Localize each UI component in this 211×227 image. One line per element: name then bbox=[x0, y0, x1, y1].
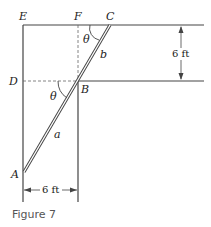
figure-caption: Figure 7 bbox=[12, 208, 56, 221]
ladder-line-inner bbox=[24, 25, 110, 172]
angle-label-theta-bottom: θ bbox=[50, 90, 57, 103]
point-label-E: E bbox=[18, 10, 27, 23]
point-label-D: D bbox=[8, 75, 18, 88]
horizontal-dimension-label: 6 ft bbox=[42, 184, 59, 195]
point-label-C: C bbox=[106, 10, 115, 23]
arrow-down-icon bbox=[179, 73, 184, 80]
arrow-left-icon bbox=[24, 188, 31, 193]
point-label-F: F bbox=[73, 10, 82, 23]
point-label-B: B bbox=[80, 83, 89, 96]
corridor-ladder-diagram: E F C D B A b a θ θ 6 ft 6 ft bbox=[0, 0, 211, 227]
arrow-up-icon bbox=[179, 26, 184, 33]
angle-arc-bottom bbox=[58, 81, 67, 98]
arrow-right-icon bbox=[70, 188, 77, 193]
vertical-dimension-label: 6 ft bbox=[172, 48, 189, 59]
angle-label-theta-top: θ bbox=[83, 33, 90, 46]
segment-label-b: b bbox=[100, 48, 107, 61]
angle-arc-top bbox=[90, 25, 99, 40]
segment-label-a: a bbox=[54, 128, 61, 141]
point-label-A: A bbox=[10, 168, 19, 181]
